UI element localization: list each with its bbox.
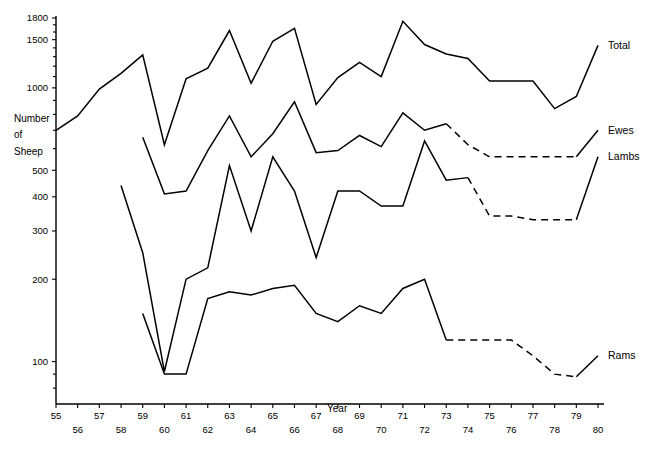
y-axis-tick-labels: 180015001000500400300200100 xyxy=(27,12,48,367)
chart-series-labels: TotalEwesLambsRams xyxy=(608,39,640,361)
x-tick-label: 73 xyxy=(441,410,452,421)
x-tick-label: 56 xyxy=(72,424,83,435)
x-tick-label: 67 xyxy=(311,410,322,421)
x-tick-label: 55 xyxy=(51,410,62,421)
x-tick-label: 71 xyxy=(398,410,409,421)
chart-figure: 180015001000500400300200100 555657585960… xyxy=(0,0,650,454)
x-tick-label: 80 xyxy=(593,424,604,435)
x-tick-label: 62 xyxy=(202,424,213,435)
x-tick-label: 61 xyxy=(181,410,192,421)
series-line-rams-solid xyxy=(143,279,447,374)
series-label-total: Total xyxy=(608,39,630,51)
y-tick-label: 1500 xyxy=(27,34,48,45)
x-axis-title: Year xyxy=(327,403,348,414)
x-tick-label: 75 xyxy=(484,410,495,421)
x-tick-label: 78 xyxy=(549,424,560,435)
series-line-rams-tail xyxy=(576,356,598,377)
x-tick-label: 69 xyxy=(354,410,365,421)
y-tick-label: 1800 xyxy=(27,12,48,23)
y-tick-label: 500 xyxy=(32,165,48,176)
x-tick-label: 79 xyxy=(571,410,582,421)
series-label-ewes: Ewes xyxy=(608,124,634,136)
chart-axes xyxy=(52,16,604,408)
x-tick-label: 63 xyxy=(224,410,235,421)
chart-canvas: 180015001000500400300200100 555657585960… xyxy=(0,0,650,454)
y-axis-title-line3: Sheep xyxy=(14,146,43,157)
series-label-lambs: Lambs xyxy=(608,150,640,162)
series-line-lambs-dashed xyxy=(468,178,576,220)
y-axis-title-line2: of xyxy=(14,129,23,140)
x-tick-label: 66 xyxy=(289,424,300,435)
y-tick-label: 300 xyxy=(32,225,48,236)
series-line-ewes-tail xyxy=(576,130,598,157)
x-tick-label: 77 xyxy=(528,410,539,421)
x-tick-label: 72 xyxy=(419,424,430,435)
series-line-rams-dashed xyxy=(446,340,576,377)
x-tick-label: 59 xyxy=(137,410,148,421)
x-tick-label: 65 xyxy=(268,410,279,421)
y-tick-label: 1000 xyxy=(27,82,48,93)
y-axis-title-line1: Number xyxy=(14,113,50,124)
series-label-rams: Rams xyxy=(608,349,635,361)
x-tick-label: 68 xyxy=(333,424,344,435)
x-tick-label: 64 xyxy=(246,424,257,435)
y-tick-label: 200 xyxy=(32,274,48,285)
x-tick-label: 58 xyxy=(116,424,127,435)
x-tick-label: 57 xyxy=(94,410,105,421)
x-tick-label: 60 xyxy=(159,424,170,435)
x-tick-label: 76 xyxy=(506,424,517,435)
series-line-total xyxy=(56,21,598,144)
series-line-lambs-tail xyxy=(576,157,598,220)
y-tick-label: 400 xyxy=(32,191,48,202)
x-tick-label: 74 xyxy=(463,424,474,435)
series-line-lambs-solid xyxy=(121,141,468,372)
series-line-ewes-solid xyxy=(143,102,447,194)
series-line-ewes-dashed xyxy=(446,124,576,157)
chart-series-group xyxy=(56,21,598,376)
x-tick-label: 70 xyxy=(376,424,387,435)
y-tick-label: 100 xyxy=(32,356,48,367)
